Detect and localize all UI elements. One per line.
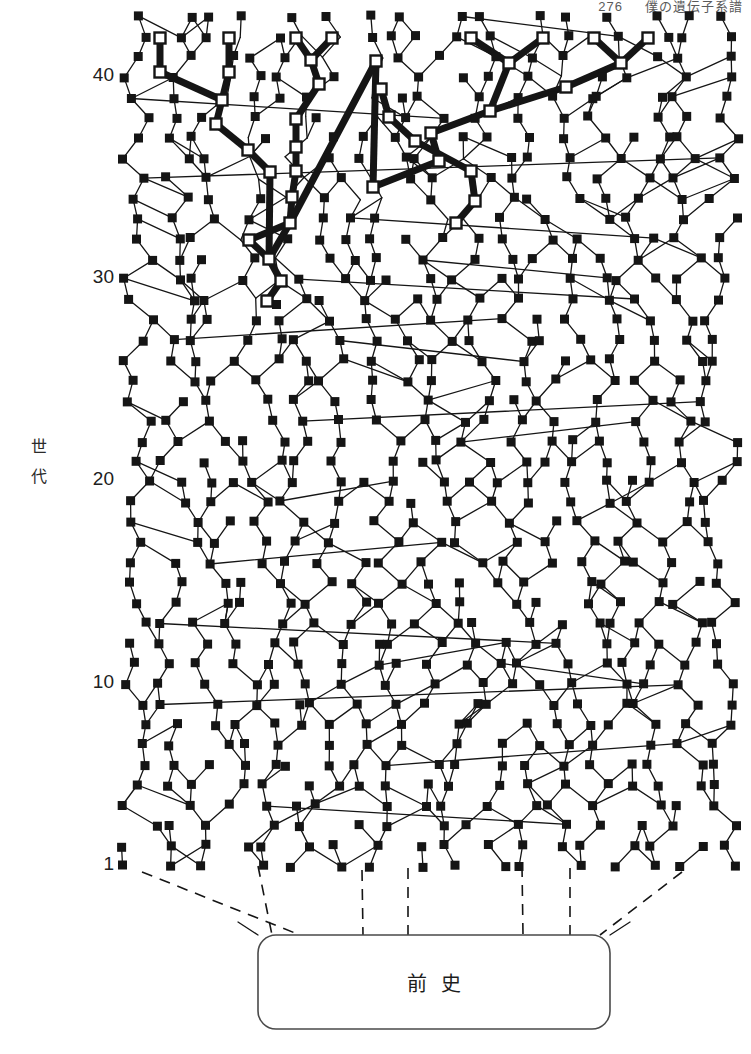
lineage-node — [683, 517, 692, 526]
traced-lineage-node — [616, 58, 627, 69]
lineage-node — [562, 820, 571, 829]
lineage-node — [650, 336, 659, 345]
traced-lineage-node — [466, 33, 477, 44]
lineage-node — [690, 478, 699, 487]
lineage-node — [211, 721, 220, 730]
lineage-node — [280, 557, 289, 566]
lineage-node — [270, 638, 279, 647]
descent-link — [250, 38, 281, 58]
lineage-node — [528, 254, 537, 263]
lineage-node — [493, 478, 502, 487]
lineage-node — [523, 153, 532, 162]
lineage-node — [676, 375, 685, 384]
lineage-node — [320, 193, 329, 202]
lineage-node — [134, 11, 143, 20]
lineage-node — [302, 294, 311, 303]
lineage-node — [139, 174, 148, 183]
lineage-node — [298, 417, 307, 426]
lineage-node — [240, 739, 249, 748]
lineage-node — [647, 456, 656, 465]
lineage-node — [251, 375, 260, 384]
lineage-node — [126, 518, 135, 527]
lineage-node — [166, 357, 175, 366]
lineage-node — [444, 782, 453, 791]
traced-lineage-node — [217, 95, 228, 106]
descent-link-long — [160, 685, 678, 705]
lineage-node — [149, 315, 158, 324]
lineage-node — [628, 476, 637, 485]
lineage-node — [141, 720, 150, 729]
lineage-node — [337, 477, 346, 486]
lineage-node — [455, 720, 464, 729]
lineage-node — [188, 13, 197, 22]
lineage-node — [132, 235, 141, 244]
lineage-node — [256, 843, 265, 852]
lineage-node — [392, 659, 401, 668]
lineage-node — [161, 416, 170, 425]
descent-link — [141, 542, 176, 563]
lineage-node — [715, 233, 724, 242]
lineage-node — [519, 578, 528, 587]
lineage-node — [603, 273, 612, 282]
lineage-node — [559, 762, 568, 771]
lineage-node — [707, 618, 716, 627]
lineage-node — [433, 295, 442, 304]
lineage-node — [561, 780, 570, 789]
lineage-node — [523, 478, 532, 487]
lineage-node — [170, 761, 179, 770]
lineage-node — [426, 274, 435, 283]
lineage-node — [130, 658, 139, 667]
lineage-node — [175, 256, 184, 265]
lineage-node — [588, 801, 597, 810]
lineage-node — [675, 438, 684, 447]
lineage-node — [622, 497, 631, 506]
descent-link — [456, 501, 492, 521]
lineage-node — [401, 113, 410, 122]
lineage-node — [406, 174, 415, 183]
lineage-node — [381, 681, 390, 690]
lineage-node — [523, 72, 532, 81]
lineage-node — [210, 214, 219, 223]
lineage-node — [382, 761, 391, 770]
lineage-node — [383, 640, 392, 649]
lineage-node — [465, 478, 474, 487]
traced-lineage-node — [291, 166, 302, 177]
lineage-node — [165, 659, 174, 668]
lineage-node — [337, 680, 346, 689]
lineage-node — [363, 740, 372, 749]
lineage-node — [126, 558, 135, 567]
traced-lineage-node — [211, 119, 222, 130]
lineage-node — [383, 802, 392, 811]
lineage-node — [629, 133, 638, 142]
lineage-node — [417, 842, 426, 851]
lineage-node — [525, 618, 534, 627]
lineage-node — [125, 578, 134, 587]
lineage-node — [372, 253, 381, 262]
lineage-node — [584, 599, 593, 608]
lineage-node — [283, 234, 292, 243]
descent-link — [306, 116, 307, 138]
lineage-node — [603, 659, 612, 668]
lineage-node — [401, 235, 410, 244]
traced-lineage-node — [384, 112, 395, 123]
lineage-node — [596, 821, 605, 830]
traced-lineage-node — [589, 33, 600, 44]
lineage-node — [165, 134, 174, 143]
lineage-node — [634, 256, 643, 265]
lineage-node — [528, 54, 537, 63]
lineage-node — [367, 395, 376, 404]
lineage-node — [337, 438, 346, 447]
lineage-node — [424, 780, 433, 789]
lineage-node — [646, 660, 655, 669]
lineage-node — [443, 497, 452, 506]
lineage-node — [699, 496, 708, 505]
lineage-node — [514, 294, 523, 303]
lineage-node — [499, 557, 508, 566]
lineage-node — [337, 659, 346, 668]
lineage-node — [420, 699, 429, 708]
lineage-node — [270, 719, 279, 728]
lineage-node — [522, 195, 531, 204]
lineage-node — [514, 93, 523, 102]
lineage-node — [729, 679, 738, 688]
lineage-node — [437, 538, 446, 547]
